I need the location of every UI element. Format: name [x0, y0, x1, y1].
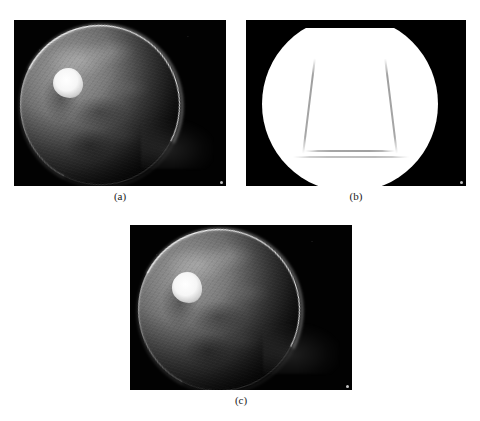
mask-inner-arc-bottom — [304, 150, 396, 152]
mask-inner-arc-right — [384, 58, 398, 154]
caption-a: (a) — [14, 190, 226, 202]
mask-inner-arc-bottom-2 — [292, 156, 410, 158]
watermark-logo-icon — [220, 181, 223, 184]
globe-haze-c — [263, 324, 338, 374]
watermark-logo-icon — [346, 385, 349, 388]
watermark-logo-icon — [460, 181, 463, 184]
panel-a-image — [14, 20, 226, 186]
panel-a — [14, 20, 226, 186]
panel-c-image — [130, 225, 352, 390]
panel-b — [246, 20, 466, 186]
panel-c — [130, 225, 352, 390]
mask-inner-arc-left — [302, 58, 316, 154]
figure-root: (a) (b) — [0, 0, 480, 421]
globe-haze-a — [141, 120, 213, 170]
image-overlay-watermark-b — [460, 181, 464, 184]
mask-top-notch — [246, 20, 466, 28]
mask-disk-b — [262, 20, 438, 186]
image-overlay-watermark-c — [346, 385, 350, 388]
panel-b-image — [246, 20, 466, 186]
caption-c: (c) — [130, 394, 352, 406]
globe-scene-c — [130, 225, 352, 390]
caption-b: (b) — [246, 190, 466, 202]
mask-scene-b — [246, 20, 466, 186]
globe-scene-a — [14, 20, 226, 186]
image-overlay-watermark-a — [220, 181, 224, 184]
